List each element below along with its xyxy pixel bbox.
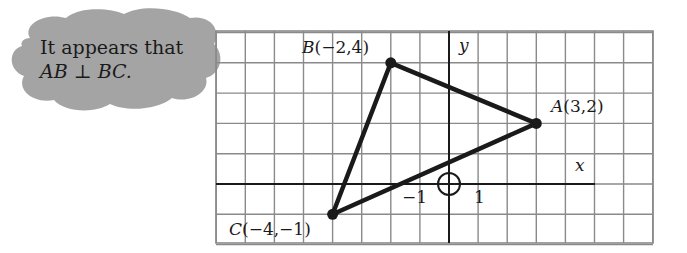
point-a-label: A(3,2) [551, 96, 604, 116]
callout-text: It appears that AB ⊥ BC. [40, 35, 183, 83]
triangle-sides [333, 63, 537, 215]
figure: It appears that AB ⊥ BC. B(−2,4) A(3,2) … [0, 0, 687, 253]
tick-label-neg1: −1 [402, 187, 427, 207]
segment-ab-label: AB [40, 60, 68, 82]
perpendicular-symbol: ⊥ [74, 60, 92, 82]
point-b-dot [385, 57, 396, 68]
point-c-label: C(−4,−1) [229, 219, 311, 239]
callout-line-1: It appears that [40, 35, 183, 59]
segment-bc-label: BC. [98, 60, 132, 82]
x-axis-label: x [575, 155, 585, 175]
point-c-dot [327, 209, 338, 220]
callout-line-2: AB ⊥ BC. [40, 59, 183, 83]
triangle-abc [327, 57, 542, 220]
point-a-dot [531, 118, 542, 129]
tick-label-pos1: 1 [474, 187, 485, 207]
point-b-label: B(−2,4) [302, 37, 369, 57]
grid [216, 31, 653, 245]
y-axis-label: y [459, 35, 469, 55]
